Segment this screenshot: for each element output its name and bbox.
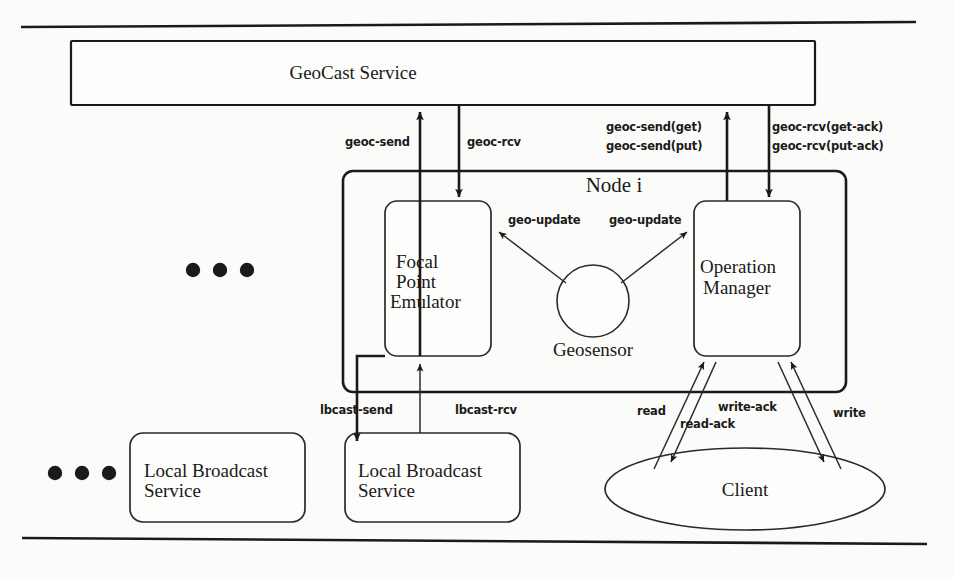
operation-manager-line2: Manager bbox=[703, 277, 771, 298]
ellipsis-lower bbox=[48, 466, 116, 480]
edge-geo-update-left-label: geo-update bbox=[508, 213, 581, 227]
edge-read-ack-label: read-ack bbox=[680, 417, 735, 431]
edge-write-label: write bbox=[833, 406, 866, 420]
edge-geoc-send-get-label: geoc-send(get) bbox=[606, 120, 702, 134]
page-rule-bottom bbox=[22, 538, 927, 544]
edge-geoc-send-put-label: geoc-send(put) bbox=[606, 139, 702, 153]
node-i-label: Node i bbox=[586, 173, 643, 197]
local-broadcast-service-left-line1: Local Broadcast bbox=[144, 460, 269, 481]
edge-geoc-rcv-label: geoc-rcv bbox=[467, 135, 522, 149]
edge-geoc-rcv-get-ack-label: geoc-rcv(get-ack) bbox=[772, 120, 883, 134]
geocast-service-label: GeoCast Service bbox=[289, 62, 416, 83]
architecture-diagram: GeoCast Service Node i Focal Point Emula… bbox=[0, 0, 955, 578]
edge-geoc-send-label: geoc-send bbox=[345, 135, 410, 149]
client-label: Client bbox=[722, 479, 769, 500]
page-rule-top bbox=[21, 22, 916, 27]
focal-point-emulator-line3: Emulator bbox=[390, 291, 461, 312]
local-broadcast-service-left-line2: Service bbox=[144, 480, 201, 501]
edge-read-label: read bbox=[637, 404, 666, 418]
edge-geo-update-right-arrow bbox=[621, 232, 687, 283]
figure-canvas: GeoCast Service Node i Focal Point Emula… bbox=[0, 0, 955, 578]
edge-lbcast-send-arrow bbox=[357, 356, 385, 441]
geosensor-label: Geosensor bbox=[553, 339, 634, 360]
edge-write-ack-arrow bbox=[778, 362, 824, 462]
ellipsis-upper bbox=[186, 263, 254, 277]
edge-lbcast-send-label: lbcast-send bbox=[320, 403, 393, 417]
focal-point-emulator-line2: Point bbox=[396, 271, 437, 292]
operation-manager-line1: Operation bbox=[700, 256, 776, 277]
geosensor-circle[interactable] bbox=[557, 265, 629, 337]
edge-lbcast-rcv-label: lbcast-rcv bbox=[455, 403, 518, 417]
focal-point-emulator-line1: Focal bbox=[396, 251, 438, 272]
local-broadcast-service-right-line1: Local Broadcast bbox=[358, 460, 483, 481]
edge-geoc-rcv-put-ack-label: geoc-rcv(put-ack) bbox=[772, 139, 884, 153]
edge-read-ack-arrow bbox=[671, 362, 716, 462]
geocast-service-box[interactable] bbox=[71, 41, 815, 105]
edge-geo-update-left-arrow bbox=[499, 232, 566, 283]
edge-write-ack-label: write-ack bbox=[718, 400, 777, 414]
edge-geo-update-right-label: geo-update bbox=[609, 213, 682, 227]
local-broadcast-service-right-line2: Service bbox=[358, 480, 415, 501]
